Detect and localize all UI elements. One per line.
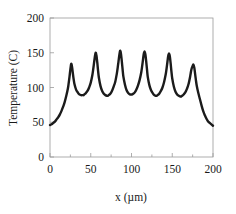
x-tick-label: 50 [85,163,97,175]
y-tick-label: 100 [27,82,45,94]
temperature-profile-chart: 050100150200 050100150200 Temperature (C… [0,0,236,214]
y-axis-title: Temperature (C) [7,50,20,126]
x-axis-tick-labels: 050100150200 [47,163,222,175]
chart-canvas: 050100150200 050100150200 Temperature (C… [0,0,236,214]
x-tick-label: 0 [47,163,53,175]
temperature-curve [50,51,213,126]
y-tick-label: 150 [27,47,45,59]
x-axis-ticks [50,153,213,157]
y-axis-ticks [50,18,54,157]
x-tick-label: 100 [123,163,141,175]
y-tick-label: 50 [33,116,45,128]
x-axis-title: x (µm) [115,191,147,204]
y-axis-tick-labels: 050100150200 [27,12,45,163]
x-tick-label: 150 [164,163,182,175]
x-tick-label: 200 [204,163,222,175]
y-tick-label: 200 [27,12,45,24]
y-tick-label: 0 [38,151,44,163]
